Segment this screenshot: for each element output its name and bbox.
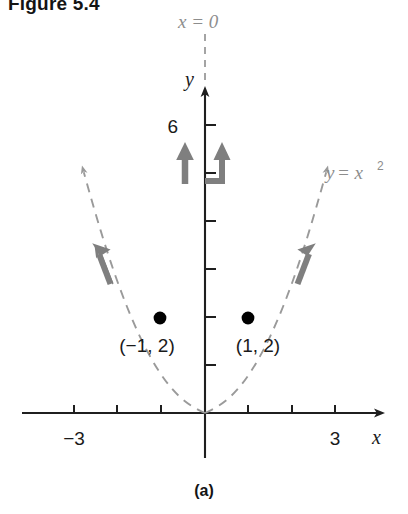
x-tick-label-minus-3: −3 — [63, 428, 85, 449]
x-axis-name-label: x — [371, 426, 381, 448]
curve-equation-label: y = x 2 — [324, 159, 384, 183]
y-tick-label-6: 6 — [167, 116, 178, 137]
panel-caption: (a) — [0, 482, 408, 500]
point-right-label: (1, 2) — [236, 335, 280, 356]
y-axis-name-label: y — [183, 68, 194, 91]
figure-container: Figure 5.4 — [0, 0, 408, 514]
curve-equation-eq: = x — [337, 162, 364, 183]
direction-arrow-y-left-icon — [176, 142, 194, 184]
parabola-curve-left — [84, 172, 205, 413]
direction-arrow-y-right-icon — [205, 142, 231, 184]
y-axis-ticks — [205, 125, 216, 365]
data-point-right — [242, 312, 255, 325]
parabola-curve-right — [205, 172, 326, 413]
point-left-label: (−1, 2) — [119, 335, 174, 356]
x-tick-label-3: 3 — [330, 428, 341, 449]
direction-arrow-left-branch-icon — [92, 243, 113, 284]
direction-arrow-right-branch-icon — [297, 243, 315, 284]
coordinate-plot: x = 0 y x 6 −3 3 (−1, 2) (1, 2) y = x 2 — [0, 0, 408, 514]
x-equals-zero-label-x: x = 0 — [177, 11, 219, 32]
curve-equation-y: y — [324, 162, 335, 183]
curve-equation-exponent: 2 — [377, 159, 384, 173]
data-point-left — [154, 312, 167, 325]
